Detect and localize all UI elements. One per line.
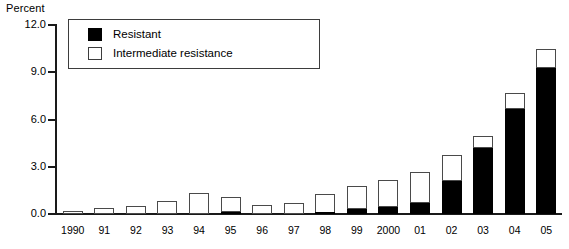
bar-segment-resistant: [221, 212, 241, 214]
bar-segment-resistant: [442, 181, 462, 214]
x-axis-tick-label: 2000: [373, 224, 405, 236]
x-axis-tick-label: 91: [89, 224, 121, 236]
legend-item-label: Intermediate resistance: [113, 47, 233, 60]
bar-chart: Percent 0.03.06.09.012.0 199091929394959…: [0, 0, 569, 249]
bar-group: [221, 197, 241, 214]
bar-segment-resistant: [536, 68, 556, 214]
x-axis-tick-label: 98: [310, 224, 342, 236]
bar-group: [505, 93, 525, 214]
legend-item-intermediate-resistance: Intermediate resistance: [88, 47, 233, 60]
bar-segment-intermediate-resistance: [378, 180, 398, 207]
bar-group: [284, 203, 304, 214]
x-axis-tick-label: 04: [499, 224, 531, 236]
legend-item-label: Resistant: [113, 28, 161, 41]
bar-segment-intermediate-resistance: [252, 205, 272, 214]
legend-item-resistant: Resistant: [88, 28, 161, 41]
bar-group: [63, 211, 83, 214]
bar-group: [315, 194, 335, 214]
bar-group: [252, 205, 272, 214]
x-axis-tick-label: 05: [530, 224, 562, 236]
bar-segment-intermediate-resistance: [473, 136, 493, 148]
bar-segment-intermediate-resistance: [284, 203, 304, 214]
bar-segment-intermediate-resistance: [315, 194, 335, 214]
bar-segment-intermediate-resistance: [410, 172, 430, 203]
x-axis-tick-label: 93: [152, 224, 184, 236]
bar-group: [410, 172, 430, 214]
bar-group: [347, 186, 367, 214]
x-axis-tick-label: 97: [278, 224, 310, 236]
hollow-square-icon: [88, 47, 102, 60]
x-axis-tick-label: 99: [341, 224, 373, 236]
bar-segment-intermediate-resistance: [221, 197, 241, 212]
bar-group: [378, 180, 398, 214]
x-axis-tick-label: 94: [183, 224, 215, 236]
x-axis-tick-label: 96: [246, 224, 278, 236]
bar-group: [94, 208, 114, 214]
bar-segment-intermediate-resistance: [126, 206, 146, 214]
bar-segment-resistant: [473, 148, 493, 214]
x-axis-tick-label: 01: [404, 224, 436, 236]
x-axis-tick-label: 02: [436, 224, 468, 236]
bar-segment-intermediate-resistance: [536, 49, 556, 69]
x-axis-tick-label: 95: [215, 224, 247, 236]
bar-segment-resistant: [410, 203, 430, 214]
bar-segment-intermediate-resistance: [157, 201, 177, 214]
bar-segment-resistant: [378, 207, 398, 214]
x-axis-tick-label: 03: [467, 224, 499, 236]
filled-square-icon: [88, 28, 102, 41]
x-axis-tick-label: 92: [120, 224, 152, 236]
bar-segment-resistant: [315, 212, 335, 214]
bar-group: [189, 193, 209, 214]
bar-group: [442, 155, 462, 214]
bar-segment-intermediate-resistance: [442, 155, 462, 181]
bar-segment-intermediate-resistance: [189, 193, 209, 214]
bar-segment-intermediate-resistance: [63, 211, 83, 214]
bar-segment-resistant: [347, 209, 367, 215]
bar-segment-intermediate-resistance: [505, 93, 525, 110]
x-axis-tick-label: 1990: [57, 224, 89, 236]
bar-group: [473, 136, 493, 214]
bar-segment-intermediate-resistance: [94, 208, 114, 214]
bar-group: [157, 201, 177, 214]
bar-segment-intermediate-resistance: [347, 186, 367, 208]
bar-group: [126, 206, 146, 214]
bar-group: [536, 49, 556, 214]
chart-legend: Resistant Intermediate resistance: [68, 19, 320, 69]
bar-segment-resistant: [505, 109, 525, 214]
